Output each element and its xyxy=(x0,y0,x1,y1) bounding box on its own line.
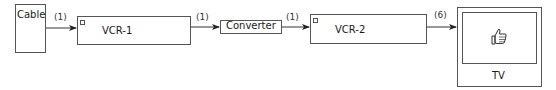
vcr1-port-icon xyxy=(80,20,85,25)
converter-label: Converter xyxy=(226,20,276,31)
vcr1-node[interactable] xyxy=(77,16,191,45)
edge-label-converter-vcr2: (1) xyxy=(286,12,299,22)
cable-label: Cable xyxy=(17,9,45,20)
edge-label-cable-vcr1: (1) xyxy=(54,12,67,22)
vcr2-label: VCR-2 xyxy=(335,24,365,35)
vcr2-port-icon xyxy=(313,18,318,23)
edge-label-vcr1-converter: (1) xyxy=(196,12,209,22)
vcr1-label: VCR-1 xyxy=(102,25,132,36)
tv-label: TV xyxy=(492,70,505,81)
thumbs-up-icon xyxy=(489,27,509,47)
edge-label-vcr2-tv: (6) xyxy=(434,10,447,20)
vcr2-node[interactable] xyxy=(310,14,427,44)
